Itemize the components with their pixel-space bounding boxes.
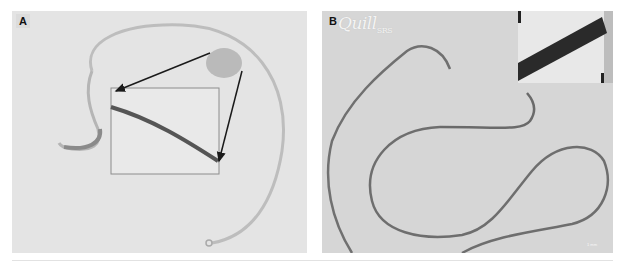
panel-label-a: A: [16, 14, 30, 28]
divider: [12, 260, 613, 261]
panel-a-photo: [12, 11, 307, 253]
watermark-text: Quill: [338, 13, 377, 33]
wire-tip: [206, 240, 212, 246]
magnification-inset: [518, 11, 613, 83]
arrow-to-inset-corner: [116, 53, 210, 91]
watermark-suffix: SRS: [377, 26, 392, 35]
panel-b-photo: [322, 11, 613, 253]
wire-left-arm: [59, 71, 99, 149]
watermark-logo: QuillSRS: [338, 13, 392, 35]
panel-a: A: [12, 11, 307, 253]
highlight-circle: [206, 48, 242, 78]
scale-bar-label: 1 mm: [587, 242, 597, 247]
panel-b: B QuillSRS 1 mm: [322, 11, 613, 253]
wire-hook: [64, 129, 100, 148]
suture-loop: [370, 127, 608, 253]
arrow-to-inset-point: [219, 71, 242, 161]
suture: [328, 46, 450, 253]
suture-hook: [440, 93, 534, 128]
